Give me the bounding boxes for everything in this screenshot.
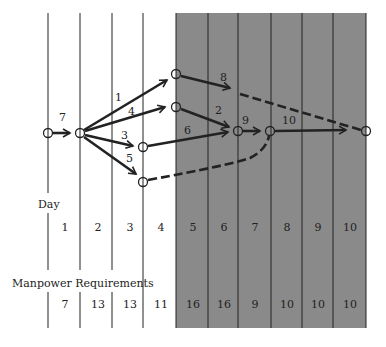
manpower-value: 10	[343, 298, 357, 311]
activity-label: 1	[115, 91, 122, 104]
activity-label: 9	[242, 114, 249, 127]
day-number: 2	[95, 221, 102, 234]
activity-label: 6	[184, 124, 191, 137]
activity-label: 2	[215, 104, 222, 117]
network-schedule-diagram: 7 1 4 3 5 8 2 6 9 10 Day 1 2 3 4 5 6 7 8…	[0, 0, 386, 347]
manpower-value: 9	[252, 298, 259, 311]
activity-label: 10	[282, 114, 296, 127]
manpower-value: 16	[217, 298, 231, 311]
manpower-value: 10	[280, 298, 294, 311]
day-number: 1	[62, 221, 69, 234]
activity-4-arrow	[85, 107, 165, 131]
manpower-heading: Manpower Requirements	[12, 277, 154, 290]
manpower-value: 16	[186, 298, 200, 311]
day-heading: Day	[38, 198, 60, 211]
activity-label: 8	[220, 71, 227, 84]
day-number: 6	[221, 221, 228, 234]
activity-10-arrow	[275, 130, 346, 131]
day-number: 3	[127, 221, 134, 234]
day-number: 7	[252, 221, 259, 234]
day-number: 9	[315, 221, 322, 234]
activity-label: 4	[128, 105, 135, 118]
day-number: 5	[190, 221, 197, 234]
activity-label: 5	[126, 152, 133, 165]
activity-label: 3	[121, 129, 128, 142]
manpower-value: 13	[123, 298, 137, 311]
manpower-value: 7	[62, 298, 69, 311]
activity-1-arrow	[84, 80, 167, 130]
manpower-value: 13	[91, 298, 105, 311]
day-number: 10	[343, 221, 357, 234]
day-number: 4	[158, 221, 165, 234]
manpower-value: 11	[154, 298, 168, 311]
day-number: 8	[284, 221, 291, 234]
manpower-value: 10	[311, 298, 325, 311]
activity-label: 7	[59, 111, 66, 124]
